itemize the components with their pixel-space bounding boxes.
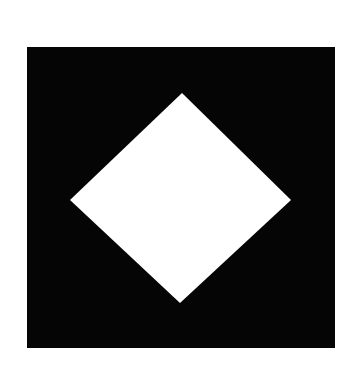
image-canvas [0, 0, 363, 381]
white-diamond [70, 93, 291, 303]
diamond-shape [0, 0, 363, 381]
